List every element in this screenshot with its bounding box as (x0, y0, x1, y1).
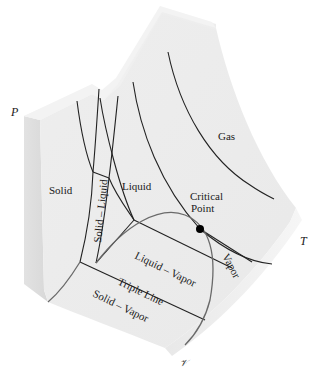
label-critical: Critical (190, 190, 223, 202)
axis-label-temperature: T (300, 234, 308, 248)
label-solid: Solid (49, 184, 73, 196)
label-point: Point (191, 202, 214, 214)
label-liquid: Liquid (122, 180, 152, 192)
main-surface (40, 12, 296, 348)
pvt-surface-diagram: Solid Liquid Gas Critical Point Solid – … (0, 0, 321, 370)
label-gas: Gas (218, 130, 235, 142)
axis-label-pressure: P (10, 105, 19, 119)
critical-point-marker (196, 225, 204, 233)
axis-label-volume: 𝒱 (180, 358, 191, 368)
